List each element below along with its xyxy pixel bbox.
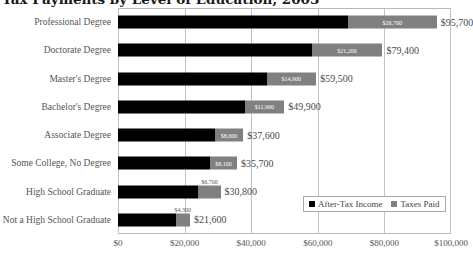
- category-label: Professional Degree: [34, 17, 111, 27]
- legend-swatch-icon: [309, 201, 315, 207]
- total-value-label: $79,400: [386, 45, 419, 56]
- total-value-label: $49,900: [288, 101, 321, 112]
- bar-segment-after-tax-income: [118, 213, 176, 226]
- category-label: High School Graduate: [26, 187, 111, 197]
- stacked-bar: $14,900$59,500: [118, 72, 316, 85]
- bar-row: Some College, No Degree$8,100$35,700: [118, 149, 451, 177]
- taxes-paid-value-label: $8,100: [215, 160, 232, 166]
- bar-row: Doctorate Degree$21,200$79,400: [118, 36, 451, 64]
- taxes-paid-value-label: $26,700: [382, 19, 402, 25]
- stacked-bar: $4,300$21,600: [118, 213, 190, 226]
- category-label: Associate Degree: [44, 130, 111, 140]
- stacked-bar: $6,700$30,800: [118, 185, 221, 198]
- bar-segment-after-tax-income: [118, 129, 215, 142]
- stacked-bar: $11,900$49,900: [118, 100, 284, 113]
- category-label: Doctorate Degree: [44, 45, 111, 55]
- taxes-paid-value-label: $14,900: [282, 76, 302, 82]
- bar-segment-taxes-paid: $8,600: [215, 129, 244, 142]
- bar-segment-taxes-paid: $4,300: [176, 213, 190, 226]
- total-value-label: $95,700: [441, 17, 473, 28]
- stacked-bar: $8,100$35,700: [118, 157, 237, 170]
- bar-segment-after-tax-income: [118, 16, 348, 29]
- stacked-bar: $8,600$37,600: [118, 129, 243, 142]
- bar-segment-after-tax-income: [118, 185, 198, 198]
- bar-segment-after-tax-income: [118, 100, 245, 113]
- legend-label: After-Tax Income: [318, 199, 382, 209]
- taxes-paid-value-label: $4,300: [175, 206, 192, 212]
- x-axis-tick-label: $60,000: [303, 238, 332, 248]
- total-value-label: $59,500: [320, 73, 353, 84]
- bar-segment-after-tax-income: [118, 72, 267, 85]
- bar-row: Master's Degree$14,900$59,500: [118, 65, 451, 93]
- bar-segment-taxes-paid: $6,700: [198, 185, 220, 198]
- taxes-paid-value-label: $11,900: [255, 104, 274, 110]
- bar-segment-taxes-paid: $11,900: [245, 100, 285, 113]
- total-value-label: $35,700: [241, 158, 274, 169]
- bar-segment-taxes-paid: $26,700: [348, 16, 437, 29]
- bar-row: Professional Degree$26,700$95,700: [118, 8, 451, 36]
- chart-title: Tax Payments by Level of Education, 2003: [2, 0, 319, 7]
- x-axis-tick-label: $40,000: [237, 238, 266, 248]
- bar-row: Bachelor's Degree$11,900$49,900: [118, 93, 451, 121]
- total-value-label: $21,600: [194, 214, 227, 225]
- stacked-bar: $21,200$79,400: [118, 44, 382, 57]
- total-value-label: $37,600: [247, 130, 280, 141]
- chart-legend: After-Tax Income Taxes Paid: [303, 196, 446, 212]
- bar-segment-taxes-paid: $14,900: [267, 72, 317, 85]
- category-label: Bachelor's Degree: [42, 102, 112, 112]
- legend-swatch-icon: [391, 201, 397, 207]
- stacked-bar: $26,700$95,700: [118, 16, 437, 29]
- x-axis-tick-label: $100,000: [434, 238, 468, 248]
- total-value-label: $30,800: [225, 186, 258, 197]
- taxes-paid-value-label: $21,200: [337, 47, 357, 53]
- bar-segment-after-tax-income: [118, 44, 312, 57]
- bar-segment-after-tax-income: [118, 157, 210, 170]
- bar-segment-taxes-paid: $21,200: [312, 44, 383, 57]
- bar-row: Associate Degree$8,600$37,600: [118, 121, 451, 149]
- category-label: Master's Degree: [49, 74, 111, 84]
- category-label: Some College, No Degree: [11, 158, 111, 168]
- legend-item-after-tax-income: After-Tax Income: [309, 199, 382, 209]
- x-axis-tick-label: $20,000: [170, 238, 199, 248]
- taxes-paid-value-label: $6,700: [201, 178, 218, 184]
- bar-segment-taxes-paid: $8,100: [210, 157, 237, 170]
- legend-label: Taxes Paid: [400, 199, 439, 209]
- legend-item-taxes-paid: Taxes Paid: [391, 199, 439, 209]
- x-axis-tick-label: $0: [114, 238, 123, 248]
- taxes-paid-value-label: $8,600: [221, 132, 238, 138]
- category-label: Not a High School Graduate: [3, 215, 111, 225]
- x-axis-tick-label: $80,000: [370, 238, 399, 248]
